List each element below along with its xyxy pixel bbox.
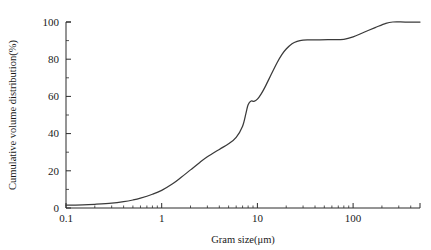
x-tick-label: 10 <box>252 212 264 224</box>
y-axis-title: Cumulative volume distribution(%) <box>7 40 19 190</box>
x-tick-label: 100 <box>345 212 362 224</box>
x-tick-label: 1 <box>159 212 165 224</box>
x-tick-label: 0.1 <box>59 212 73 224</box>
y-tick-label: 20 <box>48 165 60 177</box>
chart-figure: 020406080100 0.1110100 Gram size(μm) Cum… <box>0 0 431 250</box>
y-tick-label: 100 <box>43 16 60 28</box>
x-axis-title: Gram size(μm) <box>211 234 275 246</box>
y-tick-label: 80 <box>48 53 60 65</box>
y-tick-label: 60 <box>48 90 60 102</box>
y-tick-label: 40 <box>48 127 60 139</box>
